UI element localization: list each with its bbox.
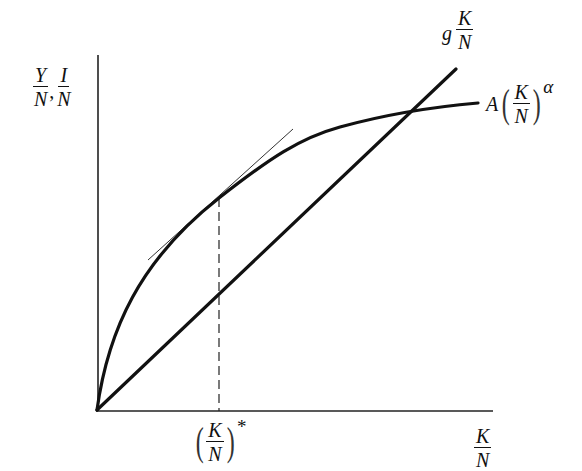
k-over-n: K N [456, 8, 473, 52]
production-curve-label: A ( K N ) α [486, 82, 553, 126]
x-axis-label: K N [474, 426, 491, 470]
kstar-label: ( K N ) * [193, 420, 247, 464]
tangent-line [148, 129, 293, 260]
k-over-n: K N [474, 426, 491, 470]
investment-line [97, 69, 456, 410]
y-over-n: Y N [33, 65, 48, 109]
i-over-n: I N [57, 65, 70, 109]
investment-line-label: g K N [442, 8, 473, 52]
k-over-n: K N [206, 420, 223, 464]
y-axis-label: Y N , I N [33, 65, 70, 109]
production-curve [97, 103, 478, 410]
k-over-n: K N [513, 82, 530, 126]
